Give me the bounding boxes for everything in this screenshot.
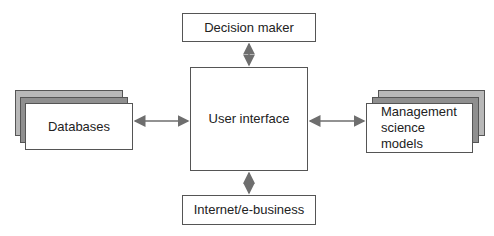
decision-maker-label: Decision maker	[204, 20, 294, 36]
internet-box: Internet/e-business	[182, 195, 316, 225]
decision-maker-box: Decision maker	[182, 13, 316, 42]
user-interface-label: User interface	[209, 111, 290, 127]
models-box: Management science models	[366, 103, 473, 153]
internet-label: Internet/e-business	[194, 202, 305, 218]
databases-label: Databases	[48, 119, 110, 135]
user-interface-box: User interface	[190, 67, 308, 171]
databases-box: Databases	[25, 103, 133, 150]
models-label: Management science models	[381, 104, 467, 152]
